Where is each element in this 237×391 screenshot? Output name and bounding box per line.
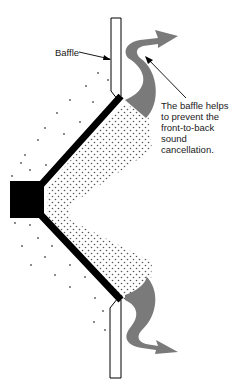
front-sound-stipple — [47, 104, 152, 300]
baffle-label: Baffle — [55, 47, 79, 58]
caption-line: sound — [161, 133, 237, 144]
baffle-bottom — [110, 298, 121, 378]
caption-line: to prevent the — [161, 111, 237, 122]
caption-line: The baffle helps — [161, 100, 237, 111]
caption-text: The baffle helps to prevent the front-to… — [161, 100, 237, 155]
caption-line: cancellation. — [161, 144, 237, 155]
speaker-magnet — [10, 181, 44, 218]
caption-line: front-to-back — [161, 122, 237, 133]
baffle-top — [111, 18, 121, 100]
speaker-baffle-diagram — [0, 0, 237, 391]
baffle-leader-arrowhead — [103, 55, 111, 60]
